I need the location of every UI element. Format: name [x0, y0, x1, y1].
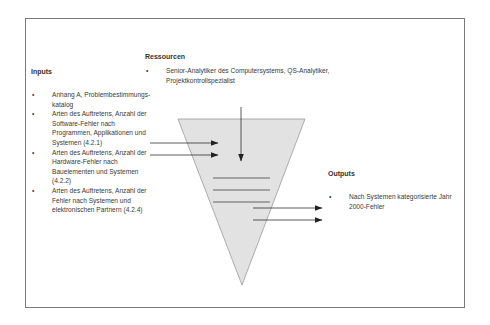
input-item: • Arten des Auftretens, Anzahl der Softw…	[31, 109, 151, 147]
input-item: • Anhang A, Problembestimmungs-katalog	[31, 90, 151, 109]
resource-item: • Senior-Analytiker des Computersystems,…	[145, 66, 385, 85]
bullet-icon: •	[32, 186, 34, 196]
output-item: • Nach Systemen kategorisierte Jahr 2000…	[328, 192, 468, 211]
bullet-icon: •	[32, 109, 34, 119]
outputs-heading: Outputs	[328, 170, 355, 177]
input-item: • Arten des Auftretens, Anzahl der Hardw…	[31, 148, 151, 186]
input-item-text: Arten des Auftretens, Anzahl der Softwar…	[52, 110, 147, 146]
inputs-list: • Anhang A, Problembestimmungs-katalog •…	[31, 90, 151, 215]
bullet-icon: •	[32, 90, 34, 100]
resource-item-text: Senior-Analytiker des Computersystems, Q…	[166, 67, 329, 84]
outputs-list: • Nach Systemen kategorisierte Jahr 2000…	[328, 192, 468, 211]
bullet-icon: •	[146, 66, 148, 76]
input-item-text: Arten des Auftretens, Anzahl der Fehler …	[52, 187, 147, 213]
resources-heading: Ressourcen	[145, 53, 185, 60]
resources-list: • Senior-Analytiker des Computersystems,…	[145, 66, 385, 85]
output-item-text: Nach Systemen kategorisierte Jahr 2000-F…	[349, 193, 452, 210]
input-item-text: Arten des Auftretens, Anzahl der Hardwar…	[52, 149, 147, 185]
bullet-icon: •	[32, 148, 34, 158]
inputs-heading: Inputs	[31, 68, 52, 75]
input-item-text: Anhang A, Problembestimmungs-katalog	[52, 91, 150, 108]
bullet-icon: •	[329, 192, 331, 202]
input-item: • Arten des Auftretens, Anzahl der Fehle…	[31, 186, 151, 215]
